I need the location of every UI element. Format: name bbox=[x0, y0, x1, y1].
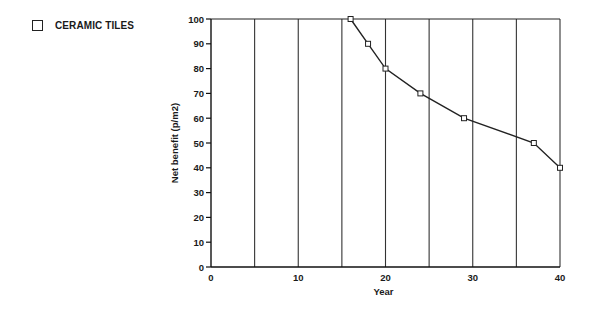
y-tick-label: 90 bbox=[193, 38, 204, 49]
y-tick-label: 60 bbox=[193, 113, 204, 124]
y-tick-label: 10 bbox=[193, 237, 204, 248]
data-point-marker bbox=[348, 17, 353, 22]
data-point-marker bbox=[366, 41, 371, 46]
y-tick-label: 30 bbox=[193, 187, 204, 198]
x-tick-label: 10 bbox=[293, 272, 304, 283]
x-tick-label: 0 bbox=[208, 272, 213, 283]
data-point-marker bbox=[418, 91, 423, 96]
y-axis-title: Net benefit (p/m2) bbox=[169, 103, 180, 183]
y-tick-label: 0 bbox=[199, 262, 204, 273]
x-tick-label: 40 bbox=[555, 272, 566, 283]
y-tick-label: 50 bbox=[193, 138, 204, 149]
x-tick-label: 20 bbox=[380, 272, 391, 283]
x-tick-label: 30 bbox=[467, 272, 478, 283]
y-tick-label: 70 bbox=[193, 88, 204, 99]
y-tick-label: 80 bbox=[193, 63, 204, 74]
data-point-marker bbox=[531, 141, 536, 146]
data-point-marker bbox=[462, 116, 467, 121]
line-chart: 0102030405060708090100010203040YearNet b… bbox=[0, 0, 591, 312]
data-point-marker bbox=[383, 66, 388, 71]
y-tick-label: 100 bbox=[188, 14, 204, 25]
x-axis-title: Year bbox=[373, 286, 393, 297]
data-point-marker bbox=[558, 165, 563, 170]
y-tick-label: 20 bbox=[193, 212, 204, 223]
series-line bbox=[351, 19, 560, 168]
y-tick-label: 40 bbox=[193, 162, 204, 173]
